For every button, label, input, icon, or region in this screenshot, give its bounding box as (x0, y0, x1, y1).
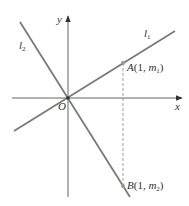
line-l2-label: l2 (19, 39, 26, 53)
point-b-label: B(1, m2) (127, 179, 164, 193)
slope-diagram: y x O l1 l2 A(1, m1) B(1, m2) (0, 0, 189, 206)
origin-label: O (58, 100, 66, 112)
x-axis-label: x (174, 100, 180, 112)
line-l1-label: l1 (144, 27, 151, 41)
point-a-label: A(1, m1) (126, 61, 164, 75)
y-axis-label: y (56, 13, 62, 25)
point-b (121, 184, 125, 188)
line-l1 (14, 31, 175, 131)
origin-point (66, 96, 70, 100)
line-l2 (20, 22, 130, 197)
coordinate-plane: y x O l1 l2 A(1, m1) B(1, m2) (0, 0, 189, 206)
point-a (121, 61, 125, 65)
